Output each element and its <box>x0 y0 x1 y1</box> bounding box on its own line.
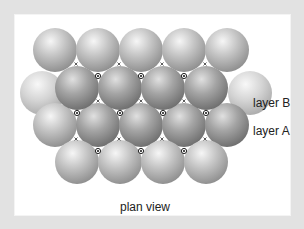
plan-view-caption: plan view <box>120 200 170 214</box>
layer-a-label: layer A <box>253 124 290 138</box>
close-packing-diagram <box>0 0 304 229</box>
layer-b-label: layer B <box>253 96 290 110</box>
